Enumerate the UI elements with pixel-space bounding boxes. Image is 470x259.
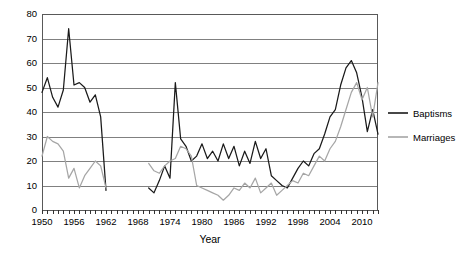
x-tick-labels-group: 1950195619621968197419801986199219982004… <box>31 216 372 227</box>
x-tick-label-1998: 1998 <box>287 216 308 227</box>
x-tick-label-1956: 1956 <box>63 216 84 227</box>
line-chart: 01020304050607080 1950195619621968197419… <box>0 0 470 259</box>
x-tick-label-1950: 1950 <box>31 216 52 227</box>
x-tick-label-1968: 1968 <box>127 216 148 227</box>
y-tick-label-20: 20 <box>26 155 37 166</box>
y-tick-label-60: 60 <box>26 57 37 68</box>
chart-figure: 01020304050607080 1950195619621968197419… <box>0 0 470 259</box>
x-axis-title: Year <box>199 233 221 245</box>
y-tick-label-10: 10 <box>26 180 37 191</box>
legend-label-marriages: Marriages <box>413 132 455 143</box>
y-tick-label-50: 50 <box>26 82 37 93</box>
x-tick-label-1974: 1974 <box>159 216 180 227</box>
y-tick-labels-group: 01020304050607080 <box>26 8 37 215</box>
x-tick-label-2004: 2004 <box>319 216 340 227</box>
y-tick-label-30: 30 <box>26 131 37 142</box>
legend-label-baptisms: Baptisms <box>413 108 452 119</box>
x-tick-label-2010: 2010 <box>351 216 372 227</box>
y-tick-label-70: 70 <box>26 33 37 44</box>
y-tick-label-80: 80 <box>26 8 37 19</box>
y-tick-label-40: 40 <box>26 106 37 117</box>
x-tick-label-1962: 1962 <box>95 216 116 227</box>
x-tick-label-1980: 1980 <box>191 216 212 227</box>
x-tick-label-1992: 1992 <box>255 216 276 227</box>
y-tick-label-0: 0 <box>32 204 37 215</box>
x-tick-label-1986: 1986 <box>223 216 244 227</box>
